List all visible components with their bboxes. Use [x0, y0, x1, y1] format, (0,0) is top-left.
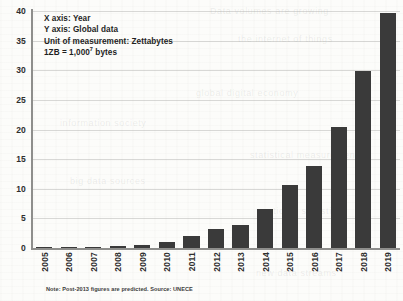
annotation-unit: Unit of measurement: Zettabytes: [44, 36, 173, 47]
x-tick-label: 2017: [334, 252, 344, 272]
x-tick-label: 2010: [162, 252, 172, 272]
axis-description-annotation: X axis: Year Y axis: Global data Unit of…: [44, 13, 173, 58]
x-axis-line: [31, 248, 400, 250]
conversion-prefix: 1ZB = 1,000: [44, 48, 90, 57]
bar: [134, 245, 150, 248]
x-tick-label: 2013: [236, 252, 246, 272]
bar-chart-figure: Data volumes are growing the internet of…: [0, 0, 403, 301]
x-tick-label: 2019: [383, 252, 393, 272]
y-tick-label: 20: [0, 125, 26, 135]
chart-source-note: Note: Post-2013 figures are predicted. S…: [46, 286, 193, 292]
x-tick-label: 2007: [89, 252, 99, 272]
bar: [355, 71, 371, 248]
y-tick-label: 30: [0, 65, 26, 75]
annotation-x-axis: X axis: Year: [44, 13, 173, 24]
bar: [159, 242, 175, 248]
bar: [208, 229, 224, 248]
x-tick-label: 2012: [212, 252, 222, 272]
bar: [36, 247, 52, 248]
x-tick-label: 2011: [187, 252, 197, 271]
bar: [257, 209, 273, 248]
bar: [331, 127, 347, 248]
bar: [380, 13, 396, 248]
y-tick-label: 0: [0, 243, 26, 253]
x-tick-label: 2018: [359, 252, 369, 272]
y-tick-label: 5: [0, 213, 26, 223]
y-tick-label: 40: [0, 6, 26, 16]
annotation-y-axis: Y axis: Global data: [44, 24, 173, 35]
bar: [85, 247, 101, 248]
bar: [306, 166, 322, 248]
x-tick-label: 2005: [40, 252, 50, 272]
conversion-suffix: bytes: [93, 48, 117, 57]
x-tick-label: 2009: [138, 252, 148, 272]
x-tick-label: 2014: [261, 252, 271, 272]
annotation-conversion: 1ZB = 1,0007 bytes: [44, 47, 173, 58]
bar: [183, 236, 199, 248]
bar: [61, 247, 77, 248]
bar: [232, 225, 248, 248]
bar: [282, 185, 298, 248]
y-tick-label: 15: [0, 154, 26, 164]
x-tick-label: 2015: [285, 252, 295, 272]
x-tick-label: 2006: [64, 252, 74, 272]
bar: [110, 246, 126, 248]
x-tick-label: 2016: [310, 252, 320, 272]
y-tick-label: 10: [0, 184, 26, 194]
x-tick-label: 2008: [113, 252, 123, 272]
y-tick-label: 35: [0, 36, 26, 46]
y-tick-label: 25: [0, 95, 26, 105]
